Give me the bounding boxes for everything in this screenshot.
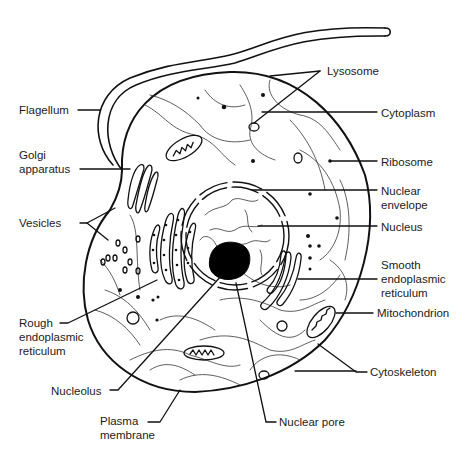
label-cytoplasm: Cytoplasm (381, 106, 435, 120)
label-golgi-apparatus: Golgi apparatus (19, 148, 70, 176)
label-nuclear-envelope: Nuclear envelope (381, 184, 428, 212)
label-smooth-er-line1: Smooth (381, 258, 446, 272)
label-golgi-line1: Golgi (19, 148, 70, 162)
label-lysosome: Lysosome (327, 64, 379, 78)
mitochondrion-bottom (184, 346, 224, 360)
vesicles-and-lysosomes (101, 123, 302, 379)
label-plasma-membrane: Plasma membrane (100, 414, 155, 442)
label-vesicles: Vesicles (19, 216, 61, 230)
label-nuclear-envelope-line2: envelope (381, 198, 428, 212)
label-nuclear-envelope-line1: Nuclear (381, 184, 428, 198)
golgi-apparatus (128, 165, 158, 213)
label-nucleus: Nucleus (381, 220, 423, 234)
label-cytoskeleton: Cytoskeleton (370, 365, 436, 379)
label-rough-er-line1: Rough (19, 316, 84, 330)
ribosomes (118, 93, 339, 322)
flagellum (98, 28, 390, 170)
label-mitochondrion: Mitochondrion (377, 306, 449, 320)
nucleolus (209, 242, 250, 279)
label-smooth-er: Smooth endoplasmic reticulum (381, 258, 446, 300)
label-smooth-er-line3: reticulum (381, 286, 446, 300)
label-plasma-line1: Plasma (100, 414, 155, 428)
label-rough-er-line2: endoplasmic (19, 330, 84, 344)
label-smooth-er-line2: endoplasmic (381, 272, 446, 286)
label-golgi-line2: apparatus (19, 162, 70, 176)
mitochondrion-top (162, 130, 206, 166)
cytoskeleton (95, 80, 349, 385)
label-rough-er-line3: reticulum (19, 344, 84, 358)
label-nuclear-pore: Nuclear pore (279, 415, 345, 429)
plasma-membrane (84, 72, 370, 392)
label-plasma-line2: membrane (100, 428, 155, 442)
label-ribosome: Ribosome (381, 155, 433, 169)
label-rough-er: Rough endoplasmic reticulum (19, 316, 84, 358)
label-flagellum: Flagellum (19, 103, 69, 117)
label-nucleolus: Nucleolus (51, 384, 102, 398)
